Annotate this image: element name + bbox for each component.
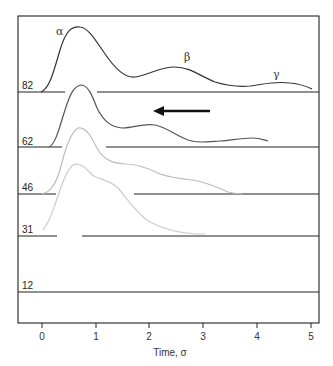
annotation-gamma: γ — [273, 68, 280, 81]
curve-62 — [49, 85, 268, 147]
x-tick-4: 4 — [254, 331, 260, 342]
chart-canvas: 82 62 46 31 12 α β γ 0 1 2 3 4 5 Time, σ — [0, 0, 333, 366]
x-axis-label: Time, σ — [153, 347, 187, 358]
x-tick-1: 1 — [93, 331, 99, 342]
x-tick-5: 5 — [308, 331, 314, 342]
trace-62 — [18, 85, 319, 147]
x-tick-0: 0 — [39, 331, 45, 342]
plot-frame — [18, 16, 319, 323]
curve-82 — [41, 27, 312, 92]
curve-46 — [42, 128, 242, 194]
trace-label-62: 62 — [22, 136, 34, 147]
annotation-alpha: α — [56, 25, 64, 38]
trace-label-46: 46 — [22, 182, 34, 193]
x-tick-2: 2 — [146, 331, 152, 342]
trace-label-82: 82 — [22, 80, 34, 91]
trace-31 — [18, 164, 319, 236]
trace-46 — [18, 128, 319, 194]
trace-label-12: 12 — [22, 280, 34, 291]
trace-label-31: 31 — [22, 224, 34, 235]
x-tick-3: 3 — [200, 331, 206, 342]
shift-left-arrow-icon — [153, 106, 210, 116]
annotation-beta: β — [184, 51, 190, 64]
curve-31 — [43, 164, 205, 234]
x-axis — [42, 323, 311, 328]
